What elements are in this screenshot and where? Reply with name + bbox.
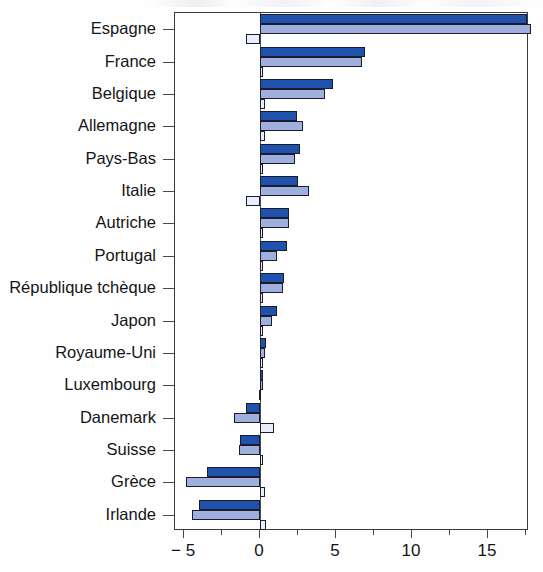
y-axis-tick <box>163 450 175 451</box>
y-axis-label-danemark: Danemark <box>0 409 156 426</box>
bar-autriche-series-1 <box>260 208 289 218</box>
y-axis-tick <box>163 29 175 30</box>
bar-suisse-series-1 <box>240 435 260 445</box>
bar-r-publique-tch-que-series-3 <box>260 293 263 303</box>
bar-r-publique-tch-que-series-2 <box>260 283 283 293</box>
bar-france-series-2 <box>260 57 362 67</box>
x-axis-tick <box>411 530 412 538</box>
bar-portugal-series-1 <box>260 241 287 251</box>
bar-autriche-series-2 <box>260 218 289 228</box>
bar-irlande-series-2 <box>192 510 260 520</box>
bar-royaume-uni-series-1 <box>260 338 266 348</box>
bar-royaume-uni-series-2 <box>260 348 265 358</box>
x-axis-minor-tick <box>373 530 374 535</box>
bar-group <box>175 402 527 434</box>
bar-luxembourg-series-3 <box>259 390 262 400</box>
bar-danemark-series-3 <box>260 423 274 433</box>
bar-pays-bas-series-1 <box>260 144 300 154</box>
bar-belgique-series-2 <box>260 89 325 99</box>
bar-luxembourg-series-2 <box>260 380 263 390</box>
y-axis-label-italie: Italie <box>0 182 156 199</box>
x-axis-minor-tick <box>221 530 222 535</box>
bar-belgique-series-3 <box>260 99 265 109</box>
bar-france-series-1 <box>260 47 365 57</box>
y-axis-label-royaume-uni: Royaume-Uni <box>0 344 156 361</box>
bar-royaume-uni-series-3 <box>260 358 263 368</box>
bar-suisse-series-3 <box>260 455 263 465</box>
y-axis-tick <box>163 321 175 322</box>
y-axis-tick <box>163 288 175 289</box>
x-axis-label-10: 10 <box>381 542 441 559</box>
x-axis-tick <box>335 530 336 538</box>
bar-group <box>175 207 527 239</box>
x-axis-label-15: 15 <box>457 542 517 559</box>
bar-allemagne-series-2 <box>260 121 303 131</box>
y-axis-label-belgique: Belgique <box>0 85 156 102</box>
y-axis-label-japon: Japon <box>0 312 156 329</box>
bar-group <box>175 434 527 466</box>
y-axis-tick <box>163 482 175 483</box>
y-axis-tick <box>163 515 175 516</box>
bar-portugal-series-3 <box>260 261 263 271</box>
y-axis-tick <box>163 418 175 419</box>
bar-espagne-series-2 <box>260 24 530 34</box>
x-axis-tick <box>183 530 184 538</box>
y-axis-tick <box>163 159 175 160</box>
x-axis-tick <box>259 530 260 538</box>
bar-group <box>175 143 527 175</box>
bar-irlande-series-1 <box>199 500 260 510</box>
bar-group <box>175 175 527 207</box>
y-axis-tick <box>163 353 175 354</box>
bar-autriche-series-3 <box>260 228 263 238</box>
bar-italie-series-2 <box>260 186 309 196</box>
bar-group <box>175 272 527 304</box>
y-axis-label-gr-ce: Grèce <box>0 473 156 490</box>
bar-espagne-series-1 <box>260 14 527 24</box>
y-axis-label-allemagne: Allemagne <box>0 117 156 134</box>
bar-suisse-series-2 <box>239 445 260 455</box>
plot-area <box>174 12 528 530</box>
bar-group <box>175 304 527 336</box>
bar-espagne-series-3 <box>246 34 260 44</box>
bar-pays-bas-series-2 <box>260 154 295 164</box>
chart-figure: EspagneFranceBelgiqueAllemagnePays-BasIt… <box>0 0 543 572</box>
bar-group <box>175 45 527 77</box>
bar-italie-series-3 <box>246 196 260 206</box>
x-axis-label-0: 0 <box>229 542 289 559</box>
bar-group <box>175 466 527 498</box>
x-axis-tick <box>487 530 488 538</box>
bar-group <box>175 499 527 531</box>
x-axis-minor-tick <box>449 530 450 535</box>
y-axis-label-pays-bas: Pays-Bas <box>0 150 156 167</box>
bar-japon-series-2 <box>260 316 272 326</box>
y-axis-tick <box>163 62 175 63</box>
x-axis-minor-tick <box>525 530 526 535</box>
y-axis-label-france: France <box>0 53 156 70</box>
x-axis-label-5: 5 <box>305 542 365 559</box>
bar-group <box>175 369 527 401</box>
y-axis-label-espagne: Espagne <box>0 20 156 37</box>
y-axis-label-suisse: Suisse <box>0 441 156 458</box>
bar-allemagne-series-3 <box>260 131 265 141</box>
y-axis-tick <box>163 256 175 257</box>
y-axis-label-autriche: Autriche <box>0 214 156 231</box>
bar-group <box>175 110 527 142</box>
bar-pays-bas-series-3 <box>260 164 263 174</box>
bar-portugal-series-2 <box>260 251 277 261</box>
bar-belgique-series-1 <box>260 79 333 89</box>
y-axis-label-r-publique-tch-que: République tchèque <box>0 279 156 296</box>
y-axis-tick <box>163 191 175 192</box>
bar-gr-ce-series-1 <box>207 467 260 477</box>
y-axis-tick <box>163 126 175 127</box>
bar-gr-ce-series-3 <box>260 487 265 497</box>
bar-allemagne-series-1 <box>260 111 296 121</box>
bar-japon-series-3 <box>260 326 263 336</box>
bar-danemark-series-1 <box>246 403 260 413</box>
cropped-title-strip <box>150 0 543 7</box>
bar-luxembourg-series-1 <box>260 370 263 380</box>
bar-group <box>175 240 527 272</box>
y-axis-tick <box>163 385 175 386</box>
bar-france-series-3 <box>260 67 263 77</box>
bar-r-publique-tch-que-series-1 <box>260 273 284 283</box>
bar-group <box>175 78 527 110</box>
